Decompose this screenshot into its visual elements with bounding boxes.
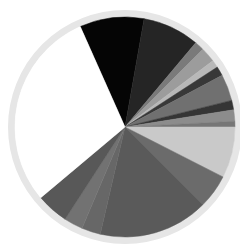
pie-chart [0,0,240,249]
pie-slices [15,17,235,237]
